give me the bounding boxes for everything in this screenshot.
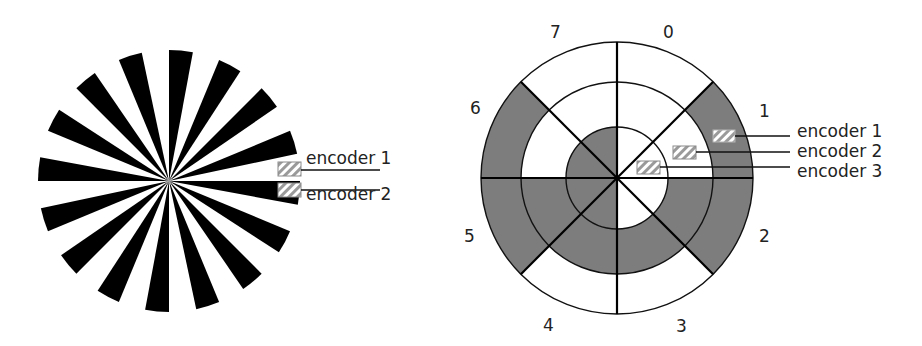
right-encoder-1-label: encoder 1 (797, 123, 882, 140)
sector-label-2: 2 (759, 228, 770, 245)
spoke-disc (38, 50, 300, 312)
sector-label-5: 5 (464, 228, 475, 245)
sector-label-1: 1 (759, 103, 770, 120)
right-encoder-2-label: encoder 2 (797, 143, 882, 160)
right-encoder-1-sensor (713, 130, 790, 142)
left-encoder-1-label: encoder 1 (306, 150, 391, 167)
sector-label-4: 4 (543, 317, 554, 334)
sector-label-7: 7 (550, 24, 561, 41)
absolute-encoder-disc (481, 42, 753, 314)
left-encoder-2-label: encoder 2 (306, 186, 391, 203)
encoder-disc-figure (0, 0, 922, 346)
right-encoder-3-label: encoder 3 (797, 163, 882, 180)
sector-label-0: 0 (663, 24, 674, 41)
sector-label-6: 6 (470, 100, 481, 117)
sector-label-3: 3 (676, 318, 687, 335)
